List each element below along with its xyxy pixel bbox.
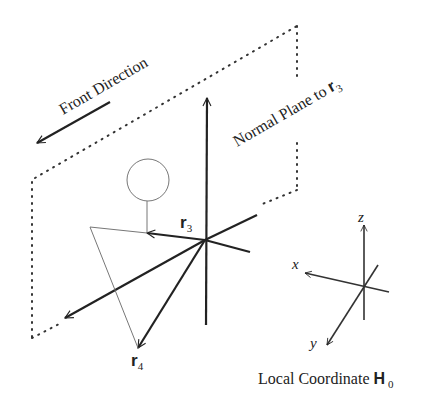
local-x-axis [305, 273, 389, 292]
vertical-axis-arrow [206, 98, 207, 325]
diagram-canvas: Front Direction Normal Plane to r3 r3 r4… [0, 0, 435, 395]
local-coordinate-axes: z x y [291, 209, 389, 351]
diagonal-axis-line [205, 215, 257, 240]
local-coordinate-subscript: 0 [388, 378, 394, 390]
local-y-axis [327, 265, 378, 345]
r4-subscript: 4 [138, 360, 144, 372]
local-coordinate-symbol: H [374, 370, 386, 387]
normal-plane-label: Normal Plane to r3 [230, 74, 345, 152]
axis-x-label: x [291, 256, 299, 272]
r3-arrow [147, 233, 205, 240]
r3-subscript: 3 [187, 222, 193, 234]
r3-label: r3 [180, 213, 193, 234]
normal-plane-text: Normal Plane to [230, 80, 333, 149]
axis-y-label: y [308, 335, 317, 351]
local-coordinate-text: Local Coordinate [258, 370, 374, 387]
lateral-axis-arrow [65, 240, 205, 318]
local-coordinate-label: Local Coordinate H0 [258, 370, 394, 390]
front-direction-label: Front Direction [56, 53, 150, 117]
r4-label: r4 [131, 351, 144, 372]
r4-arrow [138, 240, 205, 348]
r3-axis-tail [205, 240, 250, 252]
axis-z-label: z [357, 209, 364, 225]
normal-plane-outline [32, 26, 297, 338]
head-circle [127, 159, 169, 201]
